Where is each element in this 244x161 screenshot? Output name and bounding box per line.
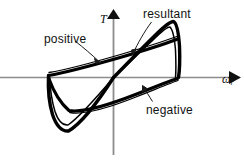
- axes-group: [0, 9, 241, 155]
- x-axis-label-subscript: r: [230, 78, 233, 87]
- x-axis-label-rotor-speed: ωr: [222, 73, 234, 87]
- torque-speed-characteristic-figure: positive resultant negative T ωr: [0, 0, 244, 161]
- curve-label-negative: negative: [146, 104, 193, 116]
- y-axis-label-torque: T: [100, 13, 107, 25]
- y-axis-arrowhead: [107, 9, 120, 19]
- curve-label-positive: positive: [44, 33, 86, 45]
- curve-label-resultant: resultant: [143, 8, 191, 20]
- curve-resultant-lower: [48, 76, 113, 132]
- figure-canvas: [0, 0, 244, 161]
